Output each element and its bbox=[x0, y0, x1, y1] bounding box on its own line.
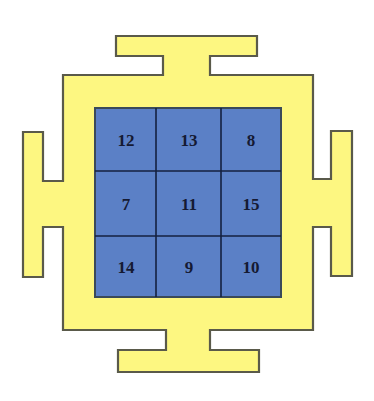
cell-r3-c1: 14 bbox=[118, 258, 136, 277]
cell-r2-c3: 15 bbox=[243, 195, 260, 214]
cell-r2-c2: 11 bbox=[181, 195, 197, 214]
cell-r3-c2: 9 bbox=[185, 258, 194, 277]
cell-r1-c1: 12 bbox=[118, 131, 135, 150]
cell-r1-c3: 8 bbox=[247, 131, 256, 150]
cell-r1-c2: 13 bbox=[181, 131, 198, 150]
cell-r3-c3: 10 bbox=[243, 258, 260, 277]
cell-r2-c1: 7 bbox=[122, 195, 131, 214]
yantra-diagram: 12 13 8 7 11 15 14 9 10 bbox=[0, 0, 374, 401]
